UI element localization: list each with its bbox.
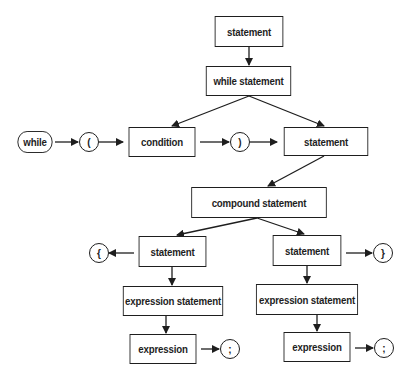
semicolon-left-terminal: ; (220, 339, 240, 359)
close-paren-terminal: ) (230, 132, 250, 152)
expression-left-node: expression (130, 334, 197, 364)
while-keyword-terminal: while (17, 131, 52, 153)
condition-node: condition (129, 127, 196, 157)
expression-statement-right-node: expression statement (256, 284, 358, 315)
expression-statement-left-node: expression statement (123, 286, 223, 316)
statement-top-node: statement (215, 16, 284, 47)
semicolon-right-terminal: ; (374, 338, 394, 358)
open-paren-terminal: ( (79, 132, 99, 152)
statement-right-node: statement (273, 235, 342, 266)
while-statement-syntax-diagram: statement while statement while ( condit… (0, 0, 411, 380)
open-brace-terminal: { (89, 243, 109, 263)
close-brace-terminal: } (373, 243, 393, 263)
expression-right-node: expression (284, 332, 351, 362)
statement-body-node: statement (284, 127, 368, 156)
compound-statement-node: compound statement (191, 187, 327, 218)
while-statement-node: while statement (206, 66, 291, 96)
statement-left-node: statement (139, 236, 207, 267)
